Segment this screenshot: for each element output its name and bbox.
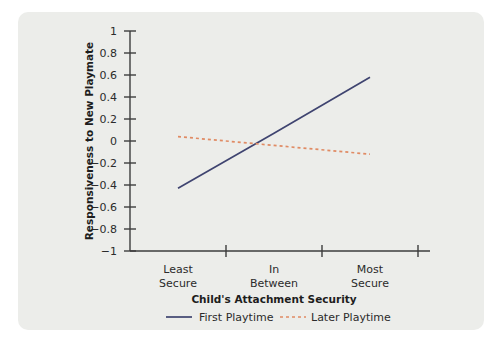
line-chart: 1 0.8 0.6 0.4 0.2 0 −0.2 −0.4 −0.6 −0.8 …	[18, 12, 484, 330]
x-tick-label: Secure	[351, 277, 389, 290]
x-tick-label: In	[269, 263, 279, 276]
y-tick-label: 0.4	[100, 91, 118, 104]
series-line-first-playtime	[178, 77, 370, 188]
y-tick-label: 0.8	[100, 47, 118, 60]
x-axis-tick-labels: Least Secure In Between Most Secure	[159, 263, 389, 290]
chart-legend: First Playtime Later Playtime	[166, 311, 391, 324]
x-tick-label: Most	[357, 263, 384, 276]
y-tick-label: 0.6	[100, 69, 118, 82]
legend-label-first-playtime: First Playtime	[199, 311, 274, 324]
y-tick-label: 0.2	[100, 113, 118, 126]
x-tick-label: Secure	[159, 277, 197, 290]
x-tick-label: Between	[250, 277, 298, 290]
chart-panel: 1 0.8 0.6 0.4 0.2 0 −0.2 −0.4 −0.6 −0.8 …	[18, 12, 484, 330]
series-line-later-playtime	[178, 137, 370, 155]
x-tick-label: Least	[163, 263, 193, 276]
y-tick-label: 1	[110, 25, 117, 38]
legend-label-later-playtime: Later Playtime	[311, 311, 391, 324]
x-axis-title: Child's Attachment Security	[191, 293, 356, 305]
y-tick-label: 0	[110, 135, 117, 148]
y-axis-title: Responsiveness to New Playmate	[83, 42, 95, 240]
y-tick-label: −1	[101, 245, 117, 258]
